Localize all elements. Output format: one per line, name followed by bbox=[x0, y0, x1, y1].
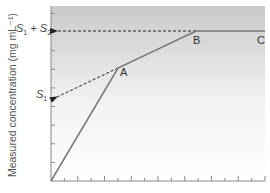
s1-plus-s2-label: S1 + S2 bbox=[16, 22, 51, 36]
point-a-label: A bbox=[120, 66, 127, 78]
plus-s-symbol: + S bbox=[27, 22, 47, 34]
subscript-2: 2 bbox=[47, 29, 51, 36]
subscript-1: 1 bbox=[43, 95, 47, 102]
point-c-label: C bbox=[257, 34, 265, 46]
plot-background bbox=[51, 6, 265, 181]
s1-label: S1 bbox=[36, 88, 47, 102]
point-b-label: B bbox=[193, 34, 200, 46]
